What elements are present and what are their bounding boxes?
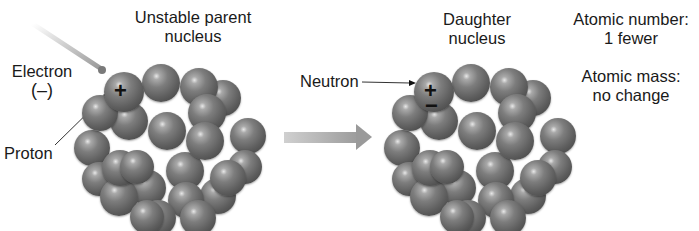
nucleon [496, 122, 534, 160]
nucleon [180, 200, 216, 231]
proton-plus-sign: + [114, 80, 127, 102]
nucleon [186, 122, 224, 160]
neutron-minus-sign: − [425, 95, 438, 117]
nucleon [458, 112, 496, 150]
nucleon [230, 118, 266, 154]
nucleon [490, 200, 526, 231]
nucleon [430, 150, 464, 184]
nucleon [142, 64, 180, 102]
nucleon [210, 160, 246, 196]
transition-arrow [284, 124, 372, 150]
nucleon [520, 160, 556, 196]
nucleon [540, 118, 576, 154]
nucleon [130, 200, 164, 231]
parent-nucleus [70, 50, 270, 231]
nucleon [452, 64, 490, 102]
nucleon [148, 112, 186, 150]
nucleon [120, 150, 154, 184]
nucleon [440, 200, 474, 231]
daughter-nucleus [380, 50, 580, 231]
